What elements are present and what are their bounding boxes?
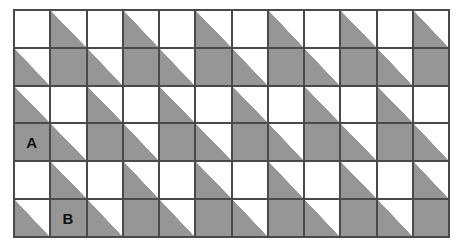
- grid-cell: [88, 124, 124, 162]
- grid-cell: [269, 11, 305, 49]
- grid-cell: [341, 87, 377, 125]
- grid-cell: [269, 49, 305, 87]
- grid-cell: [196, 11, 232, 49]
- grid-cell: [51, 11, 87, 49]
- grid-cell: [269, 87, 305, 125]
- grid-cell: [305, 49, 341, 87]
- grid-cell: [414, 124, 450, 162]
- grid-cell: A: [15, 124, 51, 162]
- grid-cell: [51, 124, 87, 162]
- grid-cell: [15, 162, 51, 200]
- grid-cell: [15, 11, 51, 49]
- grid-cell: [378, 49, 414, 87]
- grid-cell: [88, 87, 124, 125]
- grid-cell: [305, 11, 341, 49]
- grid-cell: [124, 124, 160, 162]
- grid-cell: [378, 200, 414, 238]
- grid-cell: [88, 49, 124, 87]
- grid-cell: [269, 162, 305, 200]
- grid-cell: [233, 11, 269, 49]
- grid-cell: [269, 200, 305, 238]
- grid-cell: [196, 200, 232, 238]
- grid-cell: [341, 200, 377, 238]
- grid-cell: [414, 49, 450, 87]
- grid-cell: [160, 162, 196, 200]
- grid-cell: [124, 11, 160, 49]
- grid-cell: [378, 11, 414, 49]
- grid-cell: [51, 162, 87, 200]
- grid-cell: [160, 87, 196, 125]
- grid-cell: [414, 162, 450, 200]
- grid-cell: [160, 49, 196, 87]
- cell-label-b: B: [51, 200, 85, 236]
- grid-cell: [305, 162, 341, 200]
- grid-cell: [269, 124, 305, 162]
- grid-cell: [124, 87, 160, 125]
- grid-cell: [15, 87, 51, 125]
- grid-cell: [305, 124, 341, 162]
- grid-cell: [196, 124, 232, 162]
- grid-cell: [341, 162, 377, 200]
- grid-cell: [341, 11, 377, 49]
- grid-cell: [15, 49, 51, 87]
- grid-cell: [51, 87, 87, 125]
- grid-cell: [124, 162, 160, 200]
- grid-cell: [341, 49, 377, 87]
- cell-label-a: A: [15, 124, 49, 160]
- grid-cell: [233, 87, 269, 125]
- grid-cell: [414, 200, 450, 238]
- grid-cell: [341, 124, 377, 162]
- grid-cell: [88, 200, 124, 238]
- grid-cell: [414, 11, 450, 49]
- pattern-grid: AB: [13, 9, 450, 238]
- grid-cell: [233, 162, 269, 200]
- grid-cell: [51, 49, 87, 87]
- grid-cell: [160, 11, 196, 49]
- grid-cell: B: [51, 200, 87, 238]
- grid-cell: [414, 87, 450, 125]
- grid-cell: [160, 124, 196, 162]
- grid-cell: [233, 49, 269, 87]
- grid-cell: [305, 87, 341, 125]
- grid-cell: [233, 200, 269, 238]
- grid-cell: [160, 200, 196, 238]
- grid-cell: [378, 124, 414, 162]
- grid-cell: [233, 124, 269, 162]
- grid-cell: [88, 11, 124, 49]
- grid-cell: [305, 200, 341, 238]
- grid-cell: [15, 200, 51, 238]
- grid-cell: [196, 87, 232, 125]
- grid-cell: [196, 49, 232, 87]
- grid-cell: [124, 200, 160, 238]
- grid-cell: [378, 87, 414, 125]
- grid-cell: [378, 162, 414, 200]
- grid-cell: [196, 162, 232, 200]
- grid-cell: [88, 162, 124, 200]
- tessellation-figure: AB: [13, 9, 450, 238]
- grid-cell: [124, 49, 160, 87]
